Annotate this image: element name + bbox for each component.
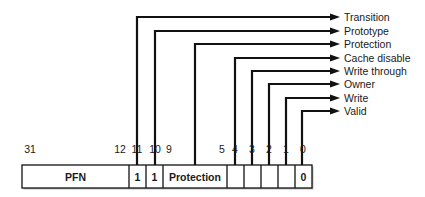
- bit-number: 0: [300, 143, 306, 155]
- bit-number: 2: [266, 143, 272, 155]
- cell-pfn: PFN: [65, 171, 86, 183]
- arrowhead-icon: [330, 108, 340, 115]
- field-label: Protection: [344, 38, 391, 50]
- pte-register-box: PFN11Protection0: [22, 165, 314, 190]
- arrowhead-icon: [330, 68, 340, 75]
- bit-number: 11: [132, 143, 143, 155]
- arrowhead-icon: [330, 55, 340, 62]
- bit-number: 3: [249, 143, 255, 155]
- field-label: Owner: [344, 78, 375, 90]
- cell-text: 0: [301, 171, 307, 183]
- field-leader-lines: TransitionPrototypeProtectionCache disab…: [137, 11, 411, 165]
- arrowhead-icon: [330, 41, 340, 48]
- field-label: Transition: [344, 11, 390, 23]
- arrowhead-icon: [330, 81, 340, 88]
- bit-number: 12: [114, 143, 126, 155]
- bit-number-labels: 311211109543210: [24, 143, 306, 155]
- field-label: Prototype: [344, 25, 389, 37]
- arrowhead-icon: [330, 14, 340, 21]
- field-leader-write: Write: [286, 92, 368, 165]
- arrowhead-icon: [330, 95, 340, 102]
- pte-diagram: TransitionPrototypeProtectionCache disab…: [0, 0, 425, 197]
- bit-number: 10: [149, 143, 161, 155]
- cell-text: Protection: [169, 171, 221, 183]
- field-label: Cache disable: [344, 52, 411, 64]
- bit-number: 31: [24, 143, 36, 155]
- bit-number: 5: [219, 143, 225, 155]
- cell-text: 1: [135, 171, 141, 183]
- bit-number: 9: [166, 143, 172, 155]
- arrowhead-icon: [330, 28, 340, 35]
- bit-number: 1: [283, 143, 289, 155]
- cell-text: PFN: [65, 171, 86, 183]
- field-label: Write: [344, 92, 368, 104]
- field-leader-write-through: Write through: [252, 65, 407, 165]
- field-leader-valid: Valid: [302, 105, 367, 165]
- bit-number: 4: [232, 143, 238, 155]
- field-label: Write through: [344, 65, 407, 77]
- field-label: Valid: [344, 105, 367, 117]
- cell-text: 1: [152, 171, 158, 183]
